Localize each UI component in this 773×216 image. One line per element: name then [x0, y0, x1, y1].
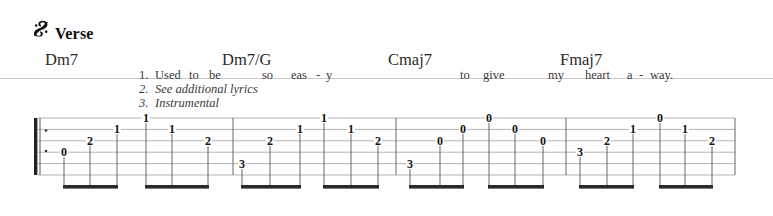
segno-glyph: [33, 20, 50, 39]
lyric-line-number: 3.: [139, 96, 148, 111]
tab-fret-number: 1: [168, 124, 176, 134]
tab-fret-number: 2: [603, 136, 611, 146]
chord-symbol: Dm7/G: [222, 50, 272, 70]
lyric-syllable: See additional lyrics: [155, 82, 258, 97]
tab-fret-number: 3: [576, 147, 584, 157]
beam: [579, 185, 634, 189]
lyric-syllable: Instrumental: [155, 96, 219, 111]
tab-fret-number: 1: [347, 124, 355, 134]
tab-fret-number: 0: [539, 136, 547, 146]
lyric-line: 1.Usedtobesoeas-ytogivemyhearta-way.: [139, 68, 759, 82]
section-label: Verse: [55, 25, 94, 43]
tab-fret-number: 2: [86, 136, 94, 146]
lyric-syllable: a: [627, 68, 633, 83]
lyric-line-number: 1.: [139, 68, 148, 83]
tab-fret-number: 2: [708, 136, 716, 146]
tab-fret-number: 1: [113, 124, 121, 134]
lyric-syllable: so: [262, 68, 273, 83]
repeat-dot: [45, 129, 48, 132]
lyric-syllable: Used: [155, 68, 181, 83]
tab-fret-number: 0: [60, 147, 68, 157]
lyric-syllable: eas: [291, 68, 307, 83]
tab-fret-number: 0: [436, 136, 444, 146]
tab-fret-number: 1: [320, 113, 328, 123]
lyric-syllable: give: [483, 68, 505, 83]
beam: [63, 185, 118, 189]
tab-fret-number: 0: [459, 124, 467, 134]
tab-fret-number: 0: [511, 124, 519, 134]
lyric-line: 2.See additional lyrics: [139, 82, 759, 96]
tab-fret-number: 2: [204, 136, 212, 146]
segno-icon: [33, 20, 50, 43]
lyric-syllable: -: [639, 68, 643, 83]
tab-fret-number: 1: [142, 113, 150, 123]
sheet-music-page: Verse Dm7Dm7/GCmaj7Fmaj7 1.Usedtobesoeas…: [0, 0, 773, 216]
tab-fret-number: 2: [266, 136, 274, 146]
lyric-syllable: be: [209, 68, 221, 83]
lyrics-block: 1.Usedtobesoeas-ytogivemyhearta-way.2.Se…: [139, 68, 759, 110]
repeat-dot: [45, 150, 48, 153]
lyric-line-number: 2.: [139, 82, 148, 97]
lyric-line: 3.Instrumental: [139, 96, 759, 110]
tab-fret-number: 3: [406, 159, 414, 169]
tab-fret-number: 0: [485, 113, 493, 123]
chord-symbol: Fmaj7: [560, 50, 602, 70]
beam: [145, 185, 209, 189]
repeat-thick-bar: [34, 118, 37, 175]
lyric-syllable: y: [326, 68, 332, 83]
tab-fret-number: 1: [296, 124, 304, 134]
lyric-syllable: to: [460, 68, 470, 83]
lyric-syllable: my: [548, 68, 564, 83]
chord-symbol: Dm7: [45, 50, 78, 70]
lyric-syllable: heart: [585, 68, 610, 83]
beam: [409, 185, 464, 189]
chord-symbol: Cmaj7: [388, 50, 432, 70]
beam: [241, 185, 301, 189]
tab-fret-number: 2: [374, 136, 382, 146]
tab-fret-number: 1: [681, 124, 689, 134]
tab-fret-number: 1: [629, 124, 637, 134]
beam: [323, 185, 379, 189]
lyric-syllable: to: [189, 68, 199, 83]
beam: [659, 185, 713, 189]
beam: [488, 185, 544, 189]
tab-fret-number: 3: [238, 159, 246, 169]
tab-fret-number: 0: [656, 113, 664, 123]
section-header: Verse: [33, 20, 94, 43]
lyric-syllable: -: [316, 68, 320, 83]
lyric-syllable: way.: [650, 68, 673, 83]
